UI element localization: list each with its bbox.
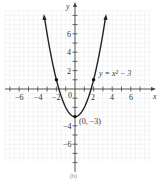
y-tick-label: 4 <box>67 48 71 57</box>
equation-label: y = x² − 3 <box>98 69 131 78</box>
x-tick-label: −2 <box>52 93 61 102</box>
x-tick-label: 2 <box>91 93 95 102</box>
x-axis-arrow-icon <box>151 87 156 91</box>
curve-arrow-right-icon <box>104 14 108 20</box>
figure-caption: (b) <box>70 173 77 179</box>
vertex-label: (0, −3) <box>79 117 101 126</box>
point-neg2-1 <box>55 78 58 81</box>
x-axis-label: x <box>152 92 157 101</box>
y-tick-label: 6 <box>67 30 71 39</box>
y-tick-label: −4 <box>63 122 72 131</box>
y-tick-label: 2 <box>67 67 71 76</box>
x-tick-label: −6 <box>15 93 24 102</box>
y-axis-arrow-icon <box>73 2 77 7</box>
x-tick-label: 6 <box>129 93 133 102</box>
vertex-point <box>73 115 76 118</box>
parabola-graph: x y 0 y = x² − 3 (0, −3) −6 −4 −2 2 4 6 … <box>0 0 159 179</box>
y-tick-label: −6 <box>63 140 72 149</box>
origin-label: 0 <box>68 91 72 100</box>
x-tick-label: 4 <box>110 93 114 102</box>
point-2-1 <box>92 78 95 81</box>
x-tick-label: −4 <box>34 93 43 102</box>
y-axis-label: y <box>65 2 70 11</box>
curve-arrow-left-icon <box>43 14 47 20</box>
